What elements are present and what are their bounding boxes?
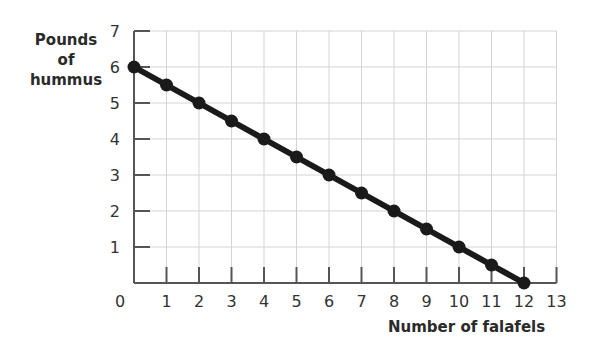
y-tick-label: 2	[110, 202, 120, 221]
data-point	[258, 133, 271, 146]
x-tick-label: 0	[115, 292, 125, 311]
x-tick-label: 7	[356, 292, 366, 311]
y-tick-label: 1	[110, 238, 120, 257]
y-tick-label: 5	[110, 94, 120, 113]
x-tick-label: 5	[291, 292, 301, 311]
x-tick-label: 6	[324, 292, 334, 311]
x-tick-label: 9	[421, 292, 431, 311]
data-point	[225, 115, 238, 128]
data-point	[388, 205, 401, 218]
data-point	[160, 79, 173, 92]
x-tick-label: 10	[449, 292, 469, 311]
x-tick-label: 13	[546, 292, 566, 311]
x-tick-label: 3	[226, 292, 236, 311]
x-tick-label: 4	[259, 292, 269, 311]
x-tick-label: 8	[389, 292, 399, 311]
x-tick-label: 2	[194, 292, 204, 311]
x-tick-label: 11	[481, 292, 501, 311]
y-tick-label: 4	[110, 130, 120, 149]
data-point	[290, 151, 303, 164]
data-point	[323, 169, 336, 182]
data-point	[128, 61, 141, 74]
data-point	[420, 223, 433, 236]
y-tick-label: 3	[110, 166, 120, 185]
data-point	[518, 277, 531, 290]
y-tick-label: 6	[110, 58, 120, 77]
data-point	[355, 187, 368, 200]
chart-plot: 1234567012345678910111213	[0, 0, 592, 350]
x-tick-label: 12	[514, 292, 534, 311]
data-point	[453, 241, 466, 254]
x-tick-label: 1	[161, 292, 171, 311]
data-point	[485, 259, 498, 272]
y-tick-label: 7	[110, 22, 120, 41]
data-point	[193, 97, 206, 110]
